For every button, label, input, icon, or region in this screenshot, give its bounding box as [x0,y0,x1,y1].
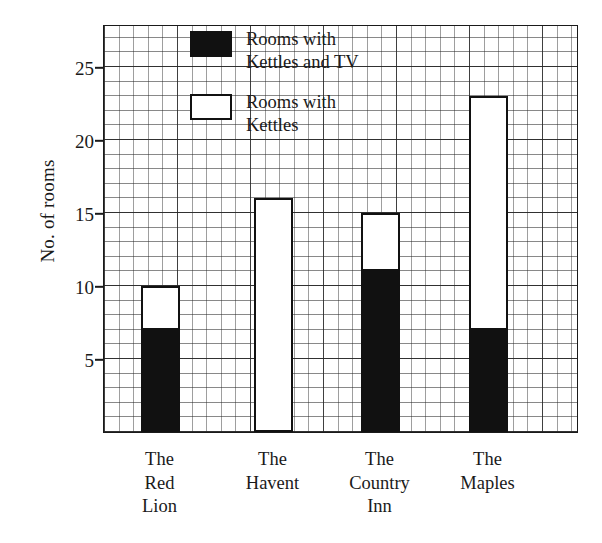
light-square-icon [190,94,232,120]
legend-item: Rooms with Kettles [190,91,440,136]
x-axis-label: TheMaples [428,448,548,495]
bar-group [469,25,508,432]
bar-segment [361,271,400,432]
bar-segment [141,330,180,432]
legend-item-label: Rooms with Kettles [246,91,336,136]
legend-item-label: Rooms with Kettles and TV [246,28,359,73]
x-axis-label: TheCountryInn [320,448,440,519]
x-axis-label-line: Country [320,472,440,496]
y-tick-label-10: 10 [34,278,94,297]
x-axis-label-line: The [320,448,440,472]
x-axis-label-line: Havent [213,472,333,496]
x-axis-label-line: Maples [428,472,548,496]
bar-group [141,25,180,432]
x-axis-label-line: Lion [100,495,220,519]
x-axis-label-line: Inn [320,495,440,519]
x-axis-label: TheHavent [213,448,333,495]
bar-chart: No. of rooms 510152025 TheRedLionTheHave… [0,0,602,543]
x-axis-label-line: The [213,448,333,472]
x-axis-label-line: Red [100,472,220,496]
bar-segment [469,330,508,432]
bar-segment [254,198,293,432]
y-tick-label-15: 15 [34,205,94,224]
legend-item: Rooms with Kettles and TV [190,28,440,73]
dark-square-icon [190,31,232,57]
bar-segment [469,96,508,330]
x-axis-label-line: The [428,448,548,472]
x-axis-label-line: The [100,448,220,472]
bar-segment [141,286,180,330]
y-tick-label-20: 20 [34,132,94,151]
y-tick-label-5: 5 [34,351,94,370]
x-axis-label: TheRedLion [100,448,220,519]
chart-legend: Rooms with Kettles and TVRooms with Kett… [190,28,440,154]
y-tick-label-25: 25 [34,59,94,78]
bar-segment [361,213,400,271]
